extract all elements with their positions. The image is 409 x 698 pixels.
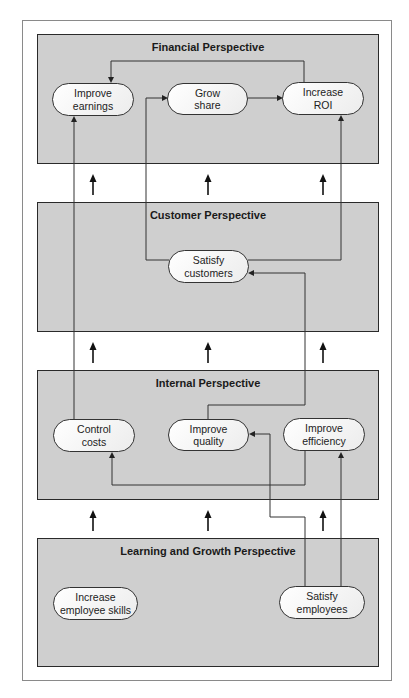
objective-label-line2: efficiency [302,435,346,448]
objective-label-line1: Increase [303,86,343,99]
panel-title-internal: Internal Perspective [38,377,378,389]
objective-label-line2: employees [297,603,348,616]
objective-label-line2: earnings [73,100,113,113]
objective-label-line1: Grow [195,87,220,100]
panel-title-financial: Financial Perspective [38,41,378,53]
objective-label-line1: Control [77,423,111,436]
objective-improve-efficiency: Improve efficiency [283,418,365,451]
objective-increase-roi: Increase ROI [282,82,364,115]
objective-label-line1: Increase [75,591,115,604]
objective-grow-share: Grow share [167,83,248,115]
objective-improve-earnings: Improve earnings [52,83,134,116]
objective-satisfy-customers: Satisfy customers [168,250,249,283]
objective-label-line1: Satisfy [193,254,225,267]
objective-label-line2: customers [184,267,232,280]
objective-label-line2: employee skills [60,604,131,617]
objective-label-line2: quality [193,435,223,448]
objective-label-line1: Improve [190,423,228,436]
panel-title-learning-growth: Learning and Growth Perspective [38,545,378,557]
objective-satisfy-employees: Satisfy employees [279,586,365,619]
objective-label-line2: share [194,99,220,112]
objective-label-line2: costs [82,436,107,449]
objective-label-line2: ROI [314,99,333,112]
objective-label-line1: Satisfy [306,590,338,603]
objective-improve-quality: Improve quality [168,419,249,451]
objective-control-costs: Control costs [53,419,135,452]
panel-title-customer: Customer Perspective [38,209,378,221]
objective-label-line1: Improve [305,422,343,435]
objective-increase-employee-skills: Increase employee skills [53,587,138,620]
objective-label-line1: Improve [74,87,112,100]
